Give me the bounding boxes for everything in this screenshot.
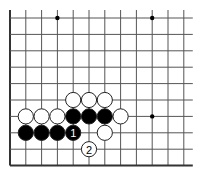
white-stone[interactable] — [34, 109, 49, 124]
star-point-icon — [55, 16, 59, 20]
black-stone[interactable] — [97, 109, 112, 124]
white-stone-icon — [81, 92, 96, 107]
black-stone-icon — [50, 125, 65, 140]
white-stone-icon — [113, 109, 128, 124]
white-stone-move-2[interactable]: 2 — [81, 142, 96, 157]
white-stone[interactable] — [66, 92, 81, 107]
white-stone-icon — [66, 92, 81, 107]
black-stone-icon — [97, 109, 112, 124]
black-stone-icon — [34, 125, 49, 140]
star-point-icon — [150, 16, 154, 20]
move-number-label: 1 — [70, 127, 76, 139]
black-stone[interactable] — [66, 109, 81, 124]
move-number-label: 2 — [86, 144, 92, 156]
white-stone[interactable] — [113, 109, 128, 124]
black-stone[interactable] — [50, 125, 65, 140]
white-stone-icon — [34, 109, 49, 124]
black-stone[interactable] — [34, 125, 49, 140]
go-board[interactable]: 12 — [0, 0, 200, 177]
go-board-canvas[interactable]: 12 — [0, 0, 200, 177]
white-stone[interactable] — [50, 109, 65, 124]
black-stone-icon — [18, 125, 33, 140]
black-stone-move-1[interactable]: 1 — [66, 125, 81, 140]
black-stone-icon — [66, 109, 81, 124]
white-stone[interactable] — [97, 92, 112, 107]
white-stone-icon — [18, 109, 33, 124]
black-stone[interactable] — [18, 125, 33, 140]
white-stone-icon — [50, 109, 65, 124]
star-point-icon — [150, 114, 154, 118]
white-stone[interactable] — [97, 125, 112, 140]
board-grid — [10, 10, 193, 166]
black-stone[interactable] — [81, 109, 96, 124]
white-stone[interactable] — [18, 109, 33, 124]
white-stone[interactable] — [81, 92, 96, 107]
white-stone-icon — [97, 92, 112, 107]
black-stone-icon — [81, 109, 96, 124]
white-stone-icon — [97, 125, 112, 140]
